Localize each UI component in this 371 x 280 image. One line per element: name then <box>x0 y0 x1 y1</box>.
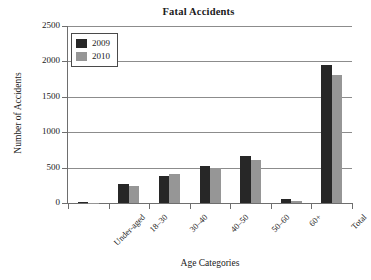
bar-group <box>159 26 180 203</box>
bar-2010-40–50 <box>210 168 221 203</box>
y-axis-title: Number of Accidents <box>13 53 23 173</box>
bar-2009-30–40 <box>159 176 170 203</box>
bar-2009-18–30 <box>118 184 129 203</box>
bar-2010-Under-aged <box>88 203 99 204</box>
bar-2009-60+ <box>281 199 292 203</box>
x-axis-tick-label: 60+ <box>307 212 323 228</box>
x-axis-tick <box>271 204 272 209</box>
bar-2009-Total <box>321 65 332 203</box>
bar-group <box>240 26 261 203</box>
legend-swatch-2010 <box>76 52 87 61</box>
legend-label: 2010 <box>92 52 110 61</box>
x-axis-tick-label: 50–60 <box>269 212 291 234</box>
x-axis-title: Age Categories <box>68 258 352 268</box>
x-axis-tick-label: Total <box>349 212 368 231</box>
x-axis-tick <box>68 204 69 209</box>
y-axis-tick-label: 500 <box>26 163 60 172</box>
x-axis-tick <box>311 204 312 209</box>
x-axis-tick <box>149 204 150 209</box>
chart-legend: 20092010 <box>71 33 118 67</box>
bar-2010-18–30 <box>129 186 140 203</box>
x-axis-tick-label: 40–50 <box>228 212 250 234</box>
x-axis-tick <box>230 204 231 209</box>
x-axis-tick-label: 18–30 <box>147 212 169 234</box>
bar-2010-Total <box>332 75 343 204</box>
bar-2009-50–60 <box>240 156 251 203</box>
bar-2009-40–50 <box>200 166 211 203</box>
y-axis-tick <box>62 132 68 133</box>
bar-2010-30–40 <box>169 174 180 203</box>
bar-group <box>321 26 342 203</box>
legend-item-2010: 2010 <box>76 50 110 63</box>
bar-chart: Fatal Accidents 05001000150020002500 Num… <box>0 0 371 280</box>
x-axis-tick <box>190 204 191 209</box>
x-axis-tick-label: Under-aged <box>112 212 147 247</box>
x-axis-tick-label: 30–40 <box>188 212 210 234</box>
legend-item-2009: 2009 <box>76 37 110 50</box>
bar-2010-60+ <box>291 201 302 203</box>
bar-2010-50–60 <box>251 160 262 203</box>
legend-label: 2009 <box>92 39 110 48</box>
y-axis-tick-label: 2000 <box>26 56 60 65</box>
y-axis-tick <box>62 26 68 27</box>
bar-group <box>118 26 139 203</box>
y-axis-tick-label: 2500 <box>26 21 60 30</box>
y-axis-tick <box>62 97 68 98</box>
bar-2009-Under-aged <box>78 202 89 203</box>
legend-swatch-2009 <box>76 39 87 48</box>
y-axis-tick-labels: 05001000150020002500 <box>22 0 60 280</box>
x-axis-line <box>67 203 353 204</box>
y-axis-tick <box>62 168 68 169</box>
y-axis-tick-label: 1500 <box>26 92 60 101</box>
bar-group <box>281 26 302 203</box>
y-axis-tick-label: 1000 <box>26 127 60 136</box>
y-axis-tick <box>62 61 68 62</box>
y-axis-tick-label: 0 <box>26 198 60 207</box>
bar-group <box>200 26 221 203</box>
x-axis-tick <box>352 204 353 209</box>
x-axis-tick <box>109 204 110 209</box>
